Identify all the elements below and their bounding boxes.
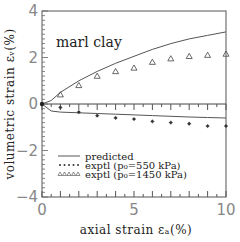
strain-chart: −4−20240510 marl clay predictedexptl (p₀… [0, 0, 240, 242]
series-triangle [57, 51, 229, 97]
y-tick-label: 4 [28, 2, 38, 20]
x-tick-label: 5 [129, 201, 139, 219]
origin-marker [40, 102, 44, 106]
y-axis-title: volumetric strain εᵥ(%) [3, 28, 17, 180]
y-tick-label: 2 [28, 49, 38, 67]
x-axis-title: axial strain εₐ(%) [80, 223, 192, 237]
legend: predictedexptl (p₀=550 kPa)exptl (p₀=145… [58, 151, 187, 180]
x-tick-label: 10 [216, 201, 235, 219]
legend-label: exptl (p₀=1450 kPa) [85, 169, 187, 180]
annotation-label: marl clay [56, 34, 122, 50]
y-tick-label: −4 [16, 188, 38, 206]
y-tick-label: −2 [16, 142, 38, 160]
series-star [58, 105, 228, 128]
tick-labels: −4−20240510 [16, 2, 236, 219]
legend-item: exptl (p₀=1450 kPa) [58, 169, 187, 180]
x-tick-label: 0 [37, 201, 47, 219]
y-tick-label: 0 [28, 95, 38, 113]
